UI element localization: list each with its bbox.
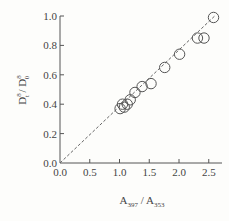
y-axis-label: D8t / D80: [15, 75, 31, 105]
data-point-marker: [199, 33, 209, 43]
y-tick-label: 0.0: [43, 157, 57, 169]
x-tick-label: 1.5: [142, 166, 156, 178]
data-point-marker: [160, 62, 170, 72]
axis-labels: A397 / A353 D8t / D80: [15, 75, 165, 209]
data-point-marker: [174, 49, 184, 59]
y-tick-label: 0.4: [43, 98, 57, 110]
scatter-chart: 0.00.51.01.52.02.50.00.20.40.60.81.0 A39…: [0, 0, 229, 221]
data-point-marker: [119, 102, 129, 112]
data-point-marker: [146, 78, 156, 88]
y-tick-label: 0.2: [43, 128, 57, 140]
x-tick-label: 1.0: [113, 166, 127, 178]
y-tick-label: 0.8: [43, 39, 57, 51]
x-axis-label: A397 / A353: [120, 194, 165, 209]
x-tick-label: 2.0: [172, 166, 186, 178]
data-point-marker: [192, 33, 202, 43]
y-tick-label: 1.0: [43, 10, 57, 22]
x-tick-label: 0.5: [83, 166, 97, 178]
y-tick-label: 0.6: [43, 69, 57, 81]
x-tick-label: 2.5: [202, 166, 216, 178]
